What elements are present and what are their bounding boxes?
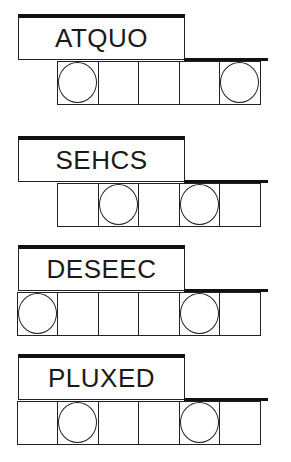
scrambled-word-box: SEHCS [18, 136, 185, 182]
answer-cell[interactable] [219, 292, 261, 336]
answer-cell-circled[interactable] [179, 401, 221, 445]
answer-cell-circled[interactable] [179, 292, 221, 336]
answer-cells [18, 183, 261, 225]
answer-cell[interactable] [179, 61, 221, 105]
answer-cells [18, 292, 261, 334]
scrambled-word-box: ATQUO [18, 14, 185, 60]
circle-marker-icon [58, 62, 97, 103]
scrambled-word-box: PLUXED [18, 354, 185, 400]
scrambled-word: SEHCS [19, 140, 184, 181]
scrambled-word: DESEEC [19, 249, 184, 290]
answer-cell-placeholder [17, 61, 59, 105]
circle-marker-icon [180, 184, 219, 225]
answer-cell[interactable] [57, 183, 99, 227]
answer-cells [18, 401, 261, 443]
scrambled-word-box: DESEEC [18, 245, 185, 291]
answer-cell[interactable] [57, 292, 99, 336]
answer-cell[interactable] [98, 61, 140, 105]
circle-marker-icon [99, 184, 138, 225]
scrambled-word: ATQUO [19, 18, 184, 59]
answer-cell[interactable] [219, 401, 261, 445]
circle-marker-icon [220, 62, 259, 103]
answer-cell[interactable] [98, 292, 140, 336]
circle-marker-icon [180, 402, 219, 443]
answer-cell-circled[interactable] [57, 401, 99, 445]
answer-cell[interactable] [17, 401, 59, 445]
circle-marker-icon [18, 293, 57, 334]
circle-marker-icon [180, 293, 219, 334]
answer-cell-circled[interactable] [179, 183, 221, 227]
answer-cell-circled[interactable] [98, 183, 140, 227]
answer-cell[interactable] [138, 401, 180, 445]
answer-cell[interactable] [98, 401, 140, 445]
answer-cell[interactable] [138, 183, 180, 227]
answer-cell-placeholder [17, 183, 59, 227]
circle-marker-icon [58, 402, 97, 443]
answer-cell-circled[interactable] [219, 61, 261, 105]
answer-cell[interactable] [138, 61, 180, 105]
answer-cells [18, 61, 261, 103]
scrambled-word: PLUXED [19, 358, 184, 399]
answer-cell-circled[interactable] [57, 61, 99, 105]
answer-cell-circled[interactable] [17, 292, 59, 336]
answer-cell[interactable] [219, 183, 261, 227]
answer-cell[interactable] [138, 292, 180, 336]
